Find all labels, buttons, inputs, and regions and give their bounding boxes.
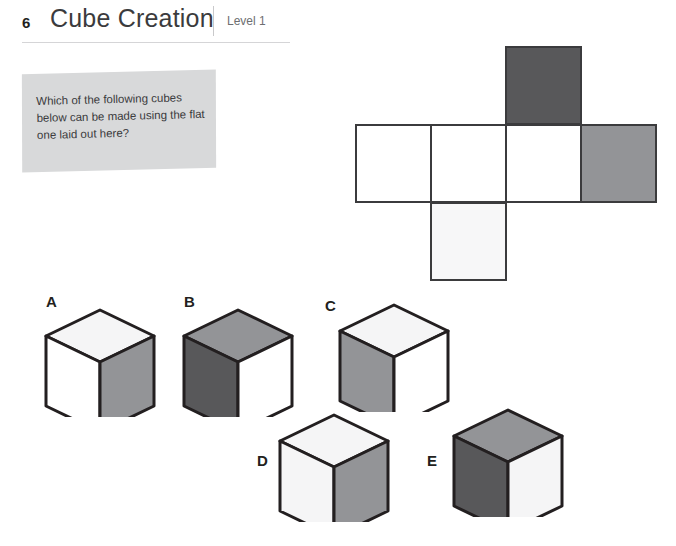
answer-cube-e[interactable] <box>452 408 564 517</box>
net-cell-row-4 <box>580 124 657 203</box>
question-text: Which of the following cubes below can b… <box>36 89 207 144</box>
level-label: Level 1 <box>227 14 266 28</box>
net-cell-row-3 <box>505 124 582 203</box>
header-divider <box>213 6 214 36</box>
cube-net-diagram <box>355 40 660 285</box>
answer-cube-d[interactable] <box>278 413 390 522</box>
net-cell-row-2 <box>430 124 507 203</box>
answer-label-e: E <box>427 452 437 469</box>
answer-label-c: C <box>325 297 336 314</box>
answer-cube-b[interactable] <box>182 308 294 417</box>
answer-label-d: D <box>257 452 268 469</box>
net-cell-top <box>505 46 582 125</box>
answer-label-a: A <box>46 293 57 310</box>
question-number: 6 <box>22 14 30 31</box>
header-rule <box>22 42 290 43</box>
answer-cube-c[interactable] <box>338 303 450 412</box>
net-cell-row-1 <box>355 124 432 203</box>
header: 6 Cube Creation Level 1 <box>0 0 300 46</box>
page-title: Cube Creation <box>50 4 214 33</box>
net-cell-bottom <box>430 202 507 281</box>
answer-cube-a[interactable] <box>44 308 156 417</box>
answer-label-b: B <box>184 293 195 310</box>
